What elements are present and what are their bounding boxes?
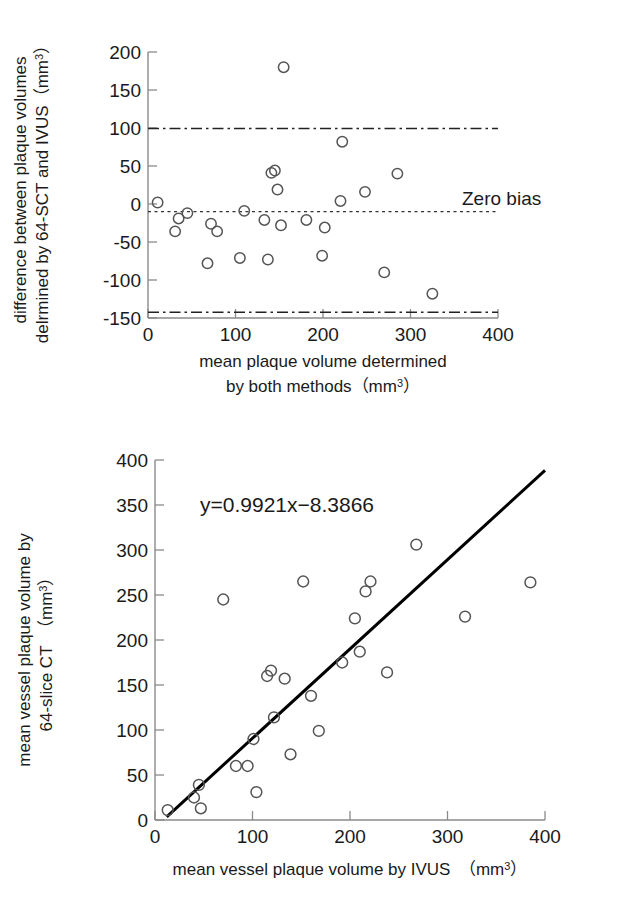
data-point <box>152 197 162 207</box>
panel-b-y-ticks <box>155 460 164 820</box>
data-point <box>335 196 345 206</box>
panel-a-y-tick-label: 150 <box>109 80 141 101</box>
data-point <box>270 165 280 175</box>
panel-a-data-points <box>152 62 437 299</box>
data-point <box>195 803 206 814</box>
data-point <box>263 254 273 264</box>
data-point <box>162 805 173 816</box>
panel-a-y-tick-labels: 200 150 100 50 0 -50 -100 -150 <box>103 42 141 329</box>
panel-a-y-axis-title-line2: delrmined by 64-SCT and IVUS（mm3） <box>33 37 52 343</box>
panel-b-x-tick-label: 0 <box>150 826 161 847</box>
panel-b-x-tick-label: 200 <box>334 826 366 847</box>
data-point <box>272 184 282 194</box>
panel-a-y-axis-title: difference between plaque volumes delrmi… <box>11 37 52 343</box>
panel-a-y-tick-label: 0 <box>130 194 141 215</box>
data-point <box>382 667 393 678</box>
data-point <box>298 576 309 587</box>
panel-b-y-tick-label: 300 <box>116 540 148 561</box>
regression-line <box>167 470 545 816</box>
panel-b-data-points <box>162 539 535 815</box>
data-point <box>242 761 253 772</box>
panel-b-x-ticks <box>155 811 545 820</box>
data-point <box>354 646 365 657</box>
panel-b-y-tick-label: 350 <box>116 495 148 516</box>
panel-b-x-tick-label: 300 <box>432 826 464 847</box>
panel-a-y-tick-label: 50 <box>120 156 141 177</box>
panel-a-y-ticks <box>148 52 157 318</box>
panel-b-y-axis-title: mean vessel plaque volume by 64-slice CT… <box>15 533 56 767</box>
regression-scatter-panel: mean vessel plaque volume by 64-slice CT… <box>0 420 644 906</box>
panel-b-y-tick-labels: 400 350 300 250 200 150 100 50 0 <box>116 450 148 831</box>
data-point <box>337 657 348 668</box>
figure-container: difference between plaque volumes delrmi… <box>0 0 644 906</box>
data-point <box>251 787 262 798</box>
panel-b-x-tick-label: 400 <box>529 826 561 847</box>
panel-a-y-tick-label: 100 <box>109 118 141 139</box>
regression-equation-label: y=0.9921x−8.3866 <box>200 493 374 516</box>
zero-bias-annotation: Zero bias <box>462 188 541 209</box>
panel-a-y-tick-label: 200 <box>109 42 141 63</box>
panel-b-x-axis-title: mean vessel plaque volume by IVUS （mm3） <box>173 860 528 879</box>
data-point <box>276 220 286 230</box>
data-point <box>317 250 327 260</box>
data-point <box>360 586 371 597</box>
data-point <box>231 761 242 772</box>
data-point <box>313 726 324 737</box>
bland-altman-panel: difference between plaque volumes delrmi… <box>0 0 644 400</box>
data-point <box>460 611 471 622</box>
panel-b-y-tick-label: 400 <box>116 450 148 471</box>
panel-a-y-tick-label: -50 <box>114 232 141 253</box>
data-point <box>427 288 437 298</box>
data-point <box>235 253 245 263</box>
data-point <box>301 215 311 225</box>
panel-a-x-tick-label: 0 <box>143 324 154 345</box>
data-point <box>360 187 370 197</box>
data-point <box>306 690 317 701</box>
data-point <box>411 539 422 550</box>
panel-b-y-axis-title-line2: 64-slice CT （mm3） <box>37 569 56 732</box>
data-point <box>218 594 229 605</box>
panel-b-y-tick-label: 100 <box>116 720 148 741</box>
data-point <box>202 258 212 268</box>
data-point <box>379 267 389 277</box>
panel-b-x-tick-label: 100 <box>237 826 269 847</box>
panel-a-x-tick-label: 400 <box>482 324 514 345</box>
data-point <box>320 222 330 232</box>
panel-b-y-tick-label: 0 <box>137 810 148 831</box>
data-point <box>170 226 180 236</box>
panel-b-x-tick-labels: 0 100 200 300 400 <box>150 826 561 847</box>
data-point <box>365 576 376 587</box>
panel-b-y-tick-label: 200 <box>116 630 148 651</box>
panel-b-y-tick-label: 250 <box>116 585 148 606</box>
panel-a-x-axis-title-group: mean plaque volume determined by both me… <box>0 345 644 415</box>
data-point <box>337 136 347 146</box>
data-point <box>349 613 360 624</box>
panel-b-y-axis-title-line1: mean vessel plaque volume by <box>15 533 34 767</box>
panel-a-x-tick-labels: 0 100 200 300 400 <box>143 324 514 345</box>
panel-a-x-tick-label: 200 <box>307 324 339 345</box>
panel-a-x-tick-label: 100 <box>220 324 252 345</box>
panel-a-x-axis-title-line1: mean plaque volume determined <box>199 352 447 371</box>
bland-altman-plot: difference between plaque volumes delrmi… <box>0 0 644 400</box>
panel-a-y-tick-label: -150 <box>103 308 141 329</box>
data-point <box>525 577 536 588</box>
panel-b-y-tick-label: 50 <box>127 765 148 786</box>
panel-b-y-tick-label: 150 <box>116 675 148 696</box>
data-point <box>278 62 288 72</box>
panel-a-x-axis-title-line2: by both methods（mm3） <box>226 377 420 396</box>
data-point <box>212 226 222 236</box>
regression-scatter-plot: mean vessel plaque volume by 64-slice CT… <box>0 420 644 906</box>
data-point <box>285 749 296 760</box>
data-point <box>279 673 290 684</box>
panel-a-x-tick-label: 300 <box>395 324 427 345</box>
data-point <box>239 206 249 216</box>
panel-a-y-tick-label: -100 <box>103 270 141 291</box>
data-point <box>182 208 192 218</box>
panel-a-x-ticks <box>148 309 498 318</box>
data-point <box>259 215 269 225</box>
panel-a-y-axis-title-line1: difference between plaque volumes <box>11 56 30 323</box>
data-point <box>392 168 402 178</box>
